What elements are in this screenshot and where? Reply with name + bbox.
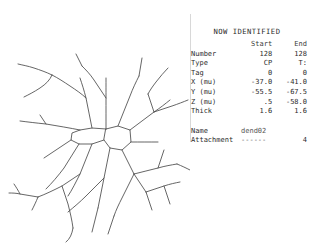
- meta-trail: 4: [298, 136, 307, 146]
- table-row[interactable]: Number 128 128: [191, 50, 307, 60]
- dendrite-branches[interactable]: [9, 54, 190, 242]
- neuron-tracing-svg[interactable]: [0, 0, 190, 252]
- neuron-tracing-canvas[interactable]: [0, 0, 190, 252]
- row-start-value[interactable]: .5: [237, 98, 272, 108]
- row-label: Z (mu): [191, 98, 237, 108]
- table-row[interactable]: Thick 1.6 1.6: [191, 107, 307, 117]
- row-end-value[interactable]: 0: [272, 69, 307, 79]
- row-start-value[interactable]: 0: [237, 69, 272, 79]
- row-start-value[interactable]: -37.0: [237, 78, 272, 88]
- table-row[interactable]: Type CP T:: [191, 59, 307, 69]
- row-label: Tag: [191, 69, 237, 79]
- column-header-start: Start: [237, 40, 272, 50]
- row-end-value[interactable]: -58.0: [272, 98, 307, 108]
- properties-table: Start End Number 128 128 Type CP T: Tag …: [191, 40, 307, 117]
- meta-label: Name: [191, 127, 241, 137]
- row-label: Thick: [191, 107, 237, 117]
- table-header-row: Start End: [191, 40, 307, 50]
- info-panel: NOW IDENTIFIED Start End Number 128 128 …: [191, 0, 309, 252]
- row-start-value[interactable]: 128: [237, 50, 272, 60]
- table-row[interactable]: Z (mu) .5 -58.0: [191, 98, 307, 108]
- meta-trail: [298, 127, 307, 137]
- application-window: NOW IDENTIFIED Start End Number 128 128 …: [0, 0, 309, 252]
- meta-row-name[interactable]: Name dend02: [191, 127, 307, 137]
- row-label: Number: [191, 50, 237, 60]
- row-label: Type: [191, 59, 237, 69]
- meta-value[interactable]: ------: [241, 136, 298, 146]
- meta-table: Name dend02 Attachment ------ 4: [191, 127, 307, 146]
- meta-value[interactable]: dend02: [241, 127, 298, 137]
- row-start-value[interactable]: 1.6: [237, 107, 272, 117]
- row-end-value[interactable]: -41.0: [272, 78, 307, 88]
- row-start-value[interactable]: -55.5: [237, 88, 272, 98]
- table-row[interactable]: X (mu) -37.0 -41.0: [191, 78, 307, 88]
- row-start-value[interactable]: CP: [237, 59, 272, 69]
- row-end-value[interactable]: 1.6: [272, 107, 307, 117]
- meta-row-attachment[interactable]: Attachment ------ 4: [191, 136, 307, 146]
- table-row[interactable]: Y (mu) -55.5 -67.5: [191, 88, 307, 98]
- meta-label: Attachment: [191, 136, 241, 146]
- row-end-value[interactable]: T:: [272, 59, 307, 69]
- column-header-label: [191, 40, 237, 50]
- row-end-value[interactable]: -67.5: [272, 88, 307, 98]
- column-header-end: End: [272, 40, 307, 50]
- table-row[interactable]: Tag 0 0: [191, 69, 307, 79]
- row-label: X (mu): [191, 78, 237, 88]
- panel-title: NOW IDENTIFIED: [191, 27, 309, 36]
- row-end-value[interactable]: 128: [272, 50, 307, 60]
- row-label: Y (mu): [191, 88, 237, 98]
